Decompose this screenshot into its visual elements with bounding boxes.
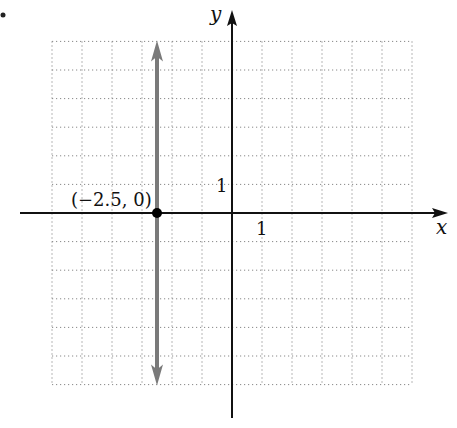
y-tick-label: 1 — [216, 175, 227, 196]
points — [152, 208, 162, 218]
y-axis-label: y — [209, 2, 222, 26]
point-marker — [152, 208, 162, 218]
bullet-mark — [1, 13, 6, 18]
point-label: (−2.5, 0) — [71, 189, 152, 210]
coordinate-plane: x y 1 1 (−2.5, 0) — [0, 0, 457, 428]
graph-canvas: x y 1 1 (−2.5, 0) — [0, 0, 457, 428]
x-tick-label: 1 — [256, 218, 267, 239]
x-axis-label: x — [436, 215, 447, 239]
